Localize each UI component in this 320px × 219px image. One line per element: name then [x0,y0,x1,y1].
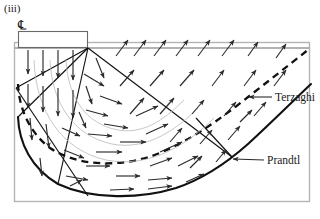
footing-rect [19,32,88,48]
bearing-capacity-diagram: Terzaghi Prandtl [0,0,320,219]
figure-frame [15,43,310,202]
terzaghi-label: Terzaghi [275,91,315,104]
centerline-symbol: ℄ [18,18,26,31]
prandtl-label: Prandtl [267,154,300,166]
panel-tag: (iii) [4,3,21,14]
